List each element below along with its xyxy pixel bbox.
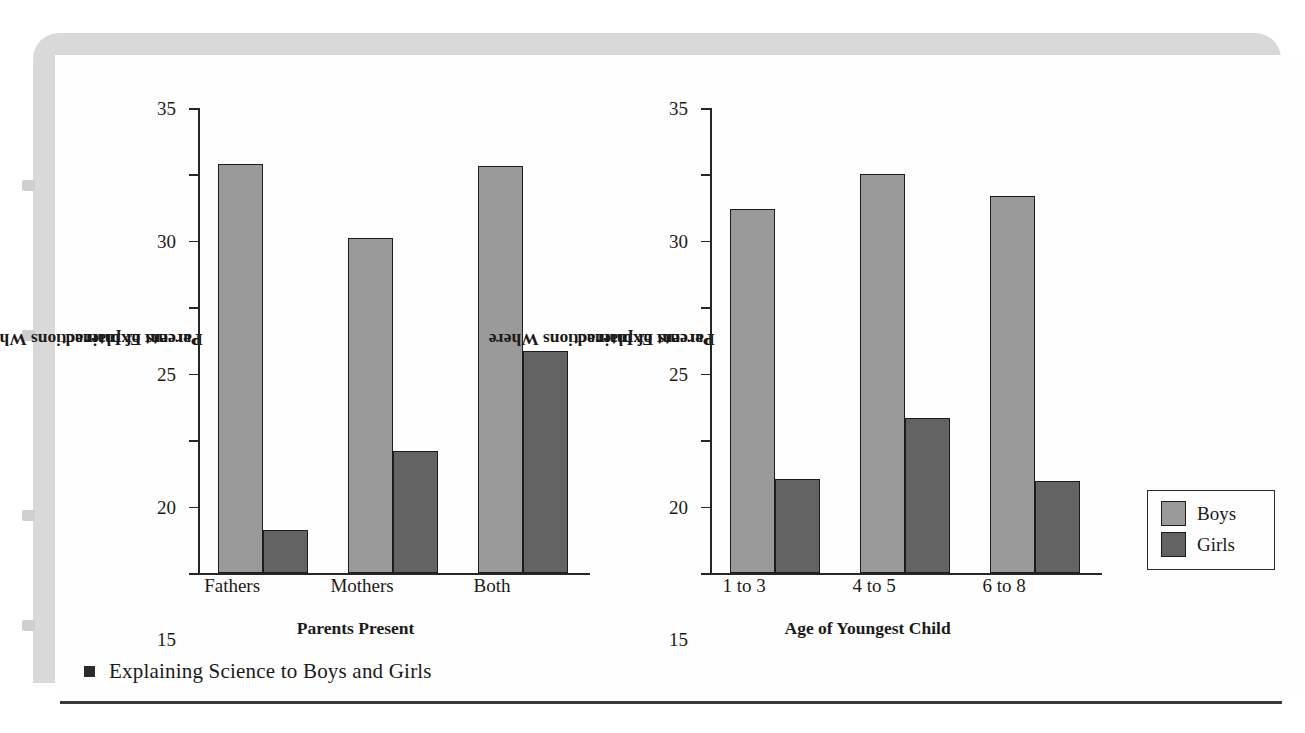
bar-boys-6-to-8 <box>990 196 1035 573</box>
bar-group <box>730 108 855 573</box>
y-axis-label-left: Percent of Interactions Where Parents Ex… <box>88 100 134 580</box>
square-bullet-icon <box>84 666 95 677</box>
plot-area-right: 05101520253035 <box>710 108 1180 575</box>
y-axis-tick-label: 30 <box>157 231 176 250</box>
y-axis-tick-label: 35 <box>157 99 176 118</box>
y-axis-tick: 5 <box>189 507 198 509</box>
y-axis-tick: 15 <box>189 374 198 376</box>
y-axis-label-right: Percent of Interactions Where Parents Ex… <box>600 100 646 580</box>
x-axis-label-right: Age of Youngest Child <box>664 618 1072 639</box>
y-axis-tick: 25 <box>189 241 198 243</box>
y-axis-tick-label: 35 <box>669 99 688 118</box>
x-axis-category-label: Mothers <box>300 575 425 597</box>
bar-group <box>860 108 985 573</box>
y-axis-tick-label: 20 <box>669 497 688 516</box>
legend-label-girls: Girls <box>1197 535 1235 554</box>
y-axis-tick: 10 <box>701 440 710 442</box>
y-axis-tick: 35 <box>701 108 710 110</box>
y-axis-tick: 35 <box>189 108 198 110</box>
bar-boys-fathers <box>218 164 263 573</box>
bar-boys-4-to-5 <box>860 174 905 573</box>
bar-group <box>218 108 343 573</box>
bar-girls-4-to-5 <box>905 418 950 573</box>
chart-age-of-youngest-child: Percent of Interactions Where Parents Ex… <box>662 100 1132 580</box>
x-axis-category-labels-left: FathersMothersBoth <box>152 575 560 597</box>
legend-label-boys: Boys <box>1197 504 1236 523</box>
x-axis-category-label: 6 to 8 <box>942 575 1067 597</box>
y-axis-tick: 5 <box>701 507 710 509</box>
y-axis-tick: 20 <box>189 307 198 309</box>
bar-girls-both <box>523 351 568 573</box>
x-axis-category-label: Both <box>430 575 555 597</box>
y-axis-tick-label: 25 <box>669 364 688 383</box>
figure-caption-text: Explaining Science to Boys and Girls <box>109 659 432 684</box>
legend-item-girls: Girls <box>1161 531 1274 558</box>
legend-swatch-boys <box>1161 501 1186 526</box>
legend-swatch-girls <box>1161 532 1186 557</box>
bar-group-container-right <box>712 108 1120 573</box>
figure-container: Percent of Interactions Where Parents Ex… <box>0 0 1305 733</box>
y-axis-tick-label: 25 <box>157 364 176 383</box>
x-axis-category-label: 1 to 3 <box>682 575 807 597</box>
y-axis-tick-label: 30 <box>669 231 688 250</box>
y-axis-tick: 20 <box>701 307 710 309</box>
bar-group <box>348 108 473 573</box>
bar-girls-mothers <box>393 451 438 573</box>
y-axis-tick: 30 <box>189 174 198 176</box>
y-axis-tick: 30 <box>701 174 710 176</box>
bar-girls-fathers <box>263 530 308 573</box>
chart-legend: Boys Girls <box>1147 490 1275 570</box>
x-axis-category-label: 4 to 5 <box>812 575 937 597</box>
y-axis-tick-label: 20 <box>157 497 176 516</box>
figure-caption: Explaining Science to Boys and Girls <box>84 659 432 684</box>
x-axis-category-label: Fathers <box>170 575 295 597</box>
bar-boys-both <box>478 166 523 573</box>
y-axis-tick: 25 <box>701 241 710 243</box>
bar-boys-1-to-3 <box>730 209 775 573</box>
y-axis-tick: 15 <box>701 374 710 376</box>
x-axis-label-left: Parents Present <box>152 618 560 639</box>
y-axis-tick: 10 <box>189 440 198 442</box>
x-axis-category-labels-right: 1 to 34 to 56 to 8 <box>664 575 1072 597</box>
bar-group <box>990 108 1115 573</box>
horizontal-rule <box>60 701 1282 704</box>
bar-girls-6-to-8 <box>1035 481 1080 573</box>
legend-item-boys: Boys <box>1161 500 1274 527</box>
bar-girls-1-to-3 <box>775 479 820 573</box>
bar-boys-mothers <box>348 238 393 573</box>
